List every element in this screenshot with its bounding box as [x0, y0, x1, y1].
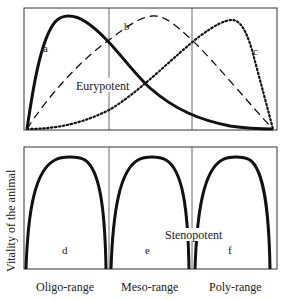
y-axis-label: Vitality of the animal — [4, 169, 18, 272]
curve-a — [27, 16, 273, 129]
curve-d-label: d — [62, 244, 68, 256]
curve-e — [111, 157, 189, 269]
bottom-panel: d e f Stenopotent — [24, 147, 277, 269]
curve-c — [27, 20, 273, 129]
ecological-valence-diagram: a b c Eurypotent d e f Stenopotent Vital… — [0, 0, 281, 300]
eurypotent-label: Eurypotent — [76, 79, 130, 93]
curve-f-label: f — [228, 244, 232, 256]
top-panel-frame — [24, 8, 277, 130]
x-range-poly: Poly-range — [209, 280, 262, 294]
curve-b — [27, 16, 273, 129]
curve-f — [195, 157, 270, 269]
curve-a-label: a — [43, 42, 48, 54]
curve-c-label: c — [253, 45, 258, 57]
curve-e-label: e — [145, 244, 150, 256]
stenopotent-label: Stenopotent — [165, 228, 223, 242]
top-panel: a b c Eurypotent — [24, 8, 277, 130]
x-range-meso: Meso-range — [121, 280, 178, 294]
x-range-oligo: Oligo-range — [36, 280, 94, 294]
curve-b-label: b — [124, 20, 130, 32]
